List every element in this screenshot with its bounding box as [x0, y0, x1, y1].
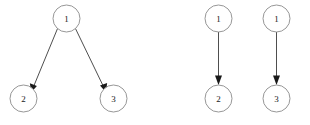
- node-label: 2: [216, 94, 221, 104]
- node-label: 3: [274, 94, 279, 104]
- node-label: 3: [111, 94, 116, 104]
- arrowhead-icon: [215, 76, 222, 86]
- node-1b-right[interactable]: 1: [263, 5, 290, 32]
- arrowhead-icon: [273, 76, 280, 86]
- edge-line: [34, 29, 58, 86]
- node-2-right[interactable]: 2: [205, 85, 232, 112]
- left-graph: 1 2 3: [10, 5, 127, 112]
- node-2-left[interactable]: 2: [10, 85, 37, 112]
- node-1-left[interactable]: 1: [53, 5, 80, 32]
- edge-1-to-2-left[interactable]: [30, 29, 58, 93]
- node-label: 1: [274, 14, 279, 24]
- node-label: 1: [64, 14, 69, 24]
- node-3-right[interactable]: 3: [263, 85, 290, 112]
- node-label: 1: [216, 14, 221, 24]
- node-1a-right[interactable]: 1: [205, 5, 232, 32]
- right-graph: 1 2 1 3: [205, 5, 290, 112]
- graph-svg: 1 2 3: [0, 0, 310, 125]
- node-3-left[interactable]: 3: [100, 85, 127, 112]
- edge-1-to-2-right[interactable]: [215, 32, 222, 85]
- diagram-canvas: 1 2 3: [0, 0, 310, 125]
- edge-1-to-3-right[interactable]: [273, 32, 280, 85]
- edge-line: [76, 29, 104, 86]
- edge-1-to-3-left[interactable]: [76, 29, 108, 93]
- node-label: 2: [21, 94, 26, 104]
